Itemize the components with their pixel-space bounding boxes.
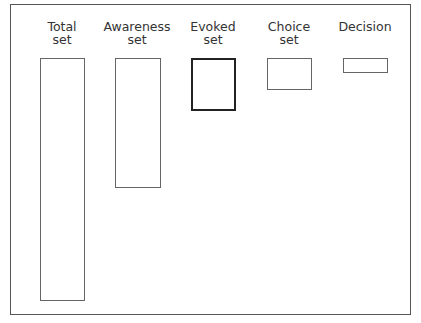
stage-label-awareness: Awareness set: [97, 20, 177, 46]
box-evoked-set: [191, 58, 236, 111]
box-choice-set: [267, 58, 312, 90]
box-total-set: [40, 58, 85, 301]
stage-label-evoked: Evoked set: [173, 20, 253, 46]
box-decision: [343, 58, 388, 73]
label-line: Decision: [325, 20, 405, 33]
label-line: set: [97, 33, 177, 46]
box-awareness-set: [115, 58, 161, 188]
stage-label-total: Total set: [22, 20, 102, 46]
label-line: set: [22, 33, 102, 46]
label-line: set: [173, 33, 253, 46]
stage-label-decision: Decision: [325, 20, 405, 33]
label-line: set: [249, 33, 329, 46]
stage-label-choice: Choice set: [249, 20, 329, 46]
